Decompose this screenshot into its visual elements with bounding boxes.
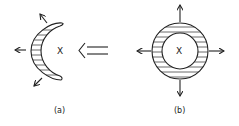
arrow-down-left-icon (34, 78, 42, 86)
panel-b: X (b) (137, 5, 224, 115)
diagram-canvas: X (a) (0, 0, 239, 126)
center-mark-a: X (57, 46, 63, 56)
center-mark-b: X (176, 46, 182, 56)
transition-arrow-icon (79, 43, 108, 58)
panel-a: X (a) (15, 14, 66, 115)
arrow-up-left-icon (40, 14, 47, 23)
label-a: (a) (54, 106, 65, 115)
label-b: (b) (174, 106, 185, 115)
